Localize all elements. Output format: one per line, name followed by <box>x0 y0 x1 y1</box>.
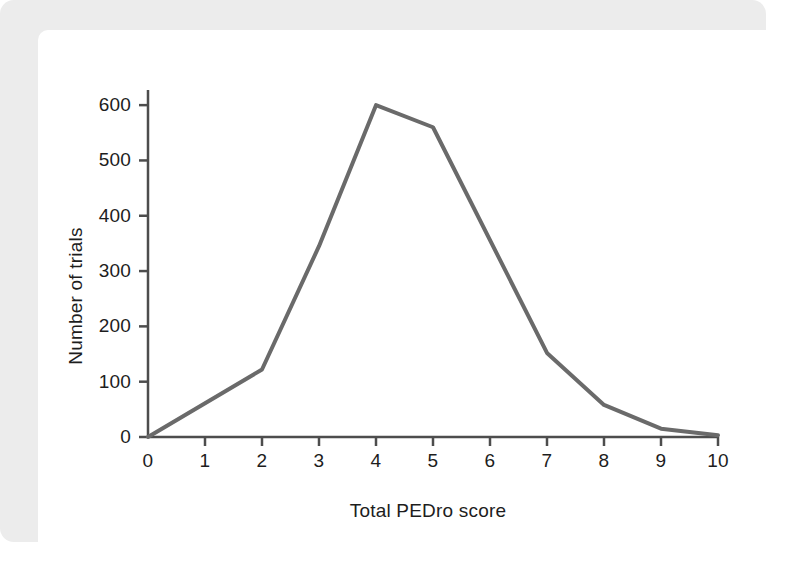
x-tick-label: 0 <box>134 451 162 470</box>
y-tick-label: 600 <box>79 95 131 114</box>
x-tick-label: 3 <box>305 451 333 470</box>
x-tick-label: 9 <box>647 451 675 470</box>
y-tick-label: 500 <box>79 150 131 169</box>
x-tick-label: 7 <box>533 451 561 470</box>
y-axis-title: Number of trials <box>65 206 87 386</box>
x-tick-marks <box>205 437 718 446</box>
figure-page: 0100200300400500600 012345678910 Number … <box>0 0 802 570</box>
x-tick-label: 4 <box>362 451 390 470</box>
x-tick-label: 2 <box>248 451 276 470</box>
x-tick-label: 8 <box>590 451 618 470</box>
x-tick-label: 1 <box>191 451 219 470</box>
data-series-line <box>148 105 718 437</box>
figure-card: 0100200300400500600 012345678910 Number … <box>38 30 766 542</box>
y-tick-label: 0 <box>79 427 131 446</box>
line-chart: 0100200300400500600 012345678910 Number … <box>38 30 766 542</box>
y-tick-marks <box>139 105 148 437</box>
x-tick-label: 6 <box>476 451 504 470</box>
x-tick-label: 10 <box>704 451 732 470</box>
x-tick-label: 5 <box>419 451 447 470</box>
x-axis-title: Total PEDro score <box>278 500 578 522</box>
